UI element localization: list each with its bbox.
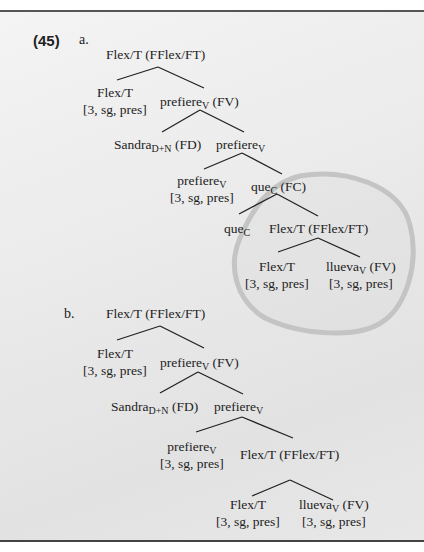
node-v-head: prefiereV [3, sg, pres]: [160, 438, 224, 472]
node-embedded-root: Flex/T (FFlex/FT): [240, 446, 339, 463]
node-embedded-flex: Flex/T [3, sg, pres]: [245, 258, 309, 292]
example-number: (45): [33, 32, 60, 49]
node-embedded-fv: lluevaV (FV) [3, sg, pres]: [326, 258, 396, 292]
node-sandra-fd: SandraD+N (FD): [111, 398, 198, 415]
node-embedded-root: Flex/T (FFlex/FT): [269, 220, 368, 237]
node-c-head: queC: [224, 220, 250, 237]
node-sandra-fd: SandraD+N (FD): [114, 136, 201, 153]
node-v-head: prefiereV [3, sg, pres]: [170, 172, 234, 206]
node-v-bar: prefiereV: [214, 398, 263, 415]
node-fc: queC (FC): [251, 178, 306, 195]
node-root: Flex/T (FFlex/FT): [106, 305, 205, 322]
node-flex-head: Flex/T [3, sg, pres]: [83, 84, 147, 118]
node-flex-head: Flex/T [3, sg, pres]: [83, 345, 147, 379]
tree-a-label: a.: [79, 32, 89, 48]
node-v-bar: prefiereV: [216, 136, 265, 153]
node-fv: prefiereV (FV): [160, 93, 239, 110]
node-fv: prefiereV (FV): [160, 354, 239, 371]
tree-b-label: b.: [64, 306, 75, 322]
node-root: Flex/T (FFlex/FT): [106, 46, 205, 63]
node-embedded-fv: lluevaV (FV) [3, sg, pres]: [299, 496, 369, 530]
node-embedded-flex: Flex/T [3, sg, pres]: [216, 496, 280, 530]
